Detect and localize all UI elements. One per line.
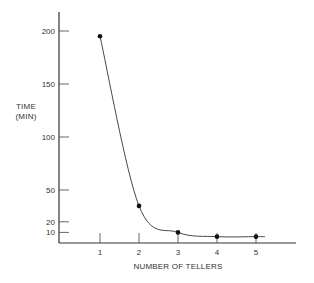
y-tick-label: 10 <box>46 228 55 237</box>
x-tick-label: 3 <box>176 248 181 257</box>
x-tick-label: 1 <box>98 248 103 257</box>
data-points <box>98 34 259 239</box>
y-tick-label: 20 <box>46 218 55 227</box>
data-point <box>215 234 220 239</box>
y-axis-title-line2: (MIN) <box>16 112 37 121</box>
y-tick-label: 100 <box>42 133 56 142</box>
data-point <box>176 230 181 235</box>
data-point <box>254 234 259 239</box>
data-point <box>98 34 103 39</box>
x-tick-label: 2 <box>137 248 142 257</box>
chart: 200150100502010 12345 TIME (MIN) NUMBER … <box>0 0 314 283</box>
x-axis-title: NUMBER OF TELLERS <box>133 262 222 271</box>
y-tick-label: 200 <box>42 27 56 36</box>
x-tick-label: 5 <box>254 248 259 257</box>
y-ticks: 200150100502010 <box>42 27 69 237</box>
data-point <box>137 204 142 209</box>
y-tick-label: 150 <box>42 80 56 89</box>
x-tick-label: 4 <box>215 248 220 257</box>
y-tick-label: 50 <box>46 186 55 195</box>
data-curve <box>100 36 265 237</box>
y-axis-title-line1: TIME <box>16 102 36 111</box>
